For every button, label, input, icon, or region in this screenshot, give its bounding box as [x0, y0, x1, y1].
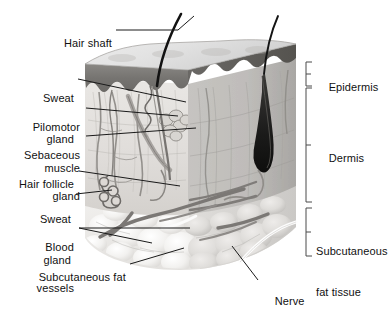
- label-nerve: Nerve: [262, 281, 322, 309]
- label-epidermis-text: Epidermis: [329, 81, 379, 93]
- leader-hair-shaft-tick: [178, 16, 194, 30]
- label-subcutaneous-fat-tissue-line2: fat tissue: [316, 286, 388, 300]
- label-dermis-text: Dermis: [329, 152, 364, 164]
- label-sebaceous-gland-line1: Sebaceous: [0, 149, 80, 163]
- label-subcutaneous-fat-text: Subcutaneous fat: [39, 271, 126, 283]
- label-hair-shaft: Hair shaft: [0, 23, 112, 64]
- label-subcutaneous-fat-tissue: Subcutaneous fat tissue: [316, 218, 388, 309]
- label-subcutaneous-fat: Subcutaneous fat: [26, 257, 136, 298]
- label-hair-shaft-text: Hair shaft: [64, 37, 112, 49]
- label-epidermis: Epidermis: [316, 67, 386, 108]
- label-blood-vessels-line1: Blood: [0, 241, 74, 255]
- label-subcutaneous-fat-tissue-line1: Subcutaneous: [316, 245, 388, 259]
- label-dermis: Dermis: [316, 138, 376, 179]
- label-nerve-text: Nerve: [275, 295, 305, 307]
- layer-brackets: [306, 62, 312, 256]
